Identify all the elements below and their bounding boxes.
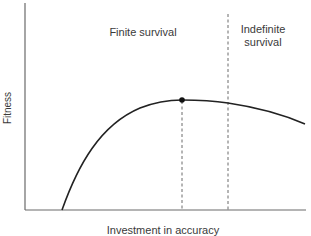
region-label-indefinite-line1: Indefinite xyxy=(241,23,286,35)
x-axis-label: Investment in accuracy xyxy=(107,224,220,236)
y-axis-label: Fitness xyxy=(2,92,13,124)
region-label-finite: Finite survival xyxy=(109,26,176,38)
region-label-indefinite-line2: survival xyxy=(244,36,281,48)
fitness-diagram: Finite survival Indefinite survival Fitn… xyxy=(0,0,311,236)
fitness-curve xyxy=(62,100,305,210)
optimum-point xyxy=(179,97,185,103)
